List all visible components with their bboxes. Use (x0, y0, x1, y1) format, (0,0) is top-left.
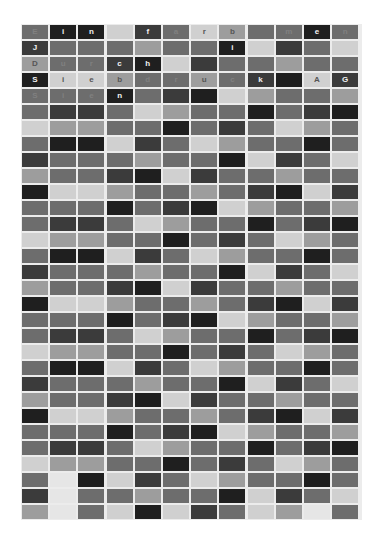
mosaic-cell (332, 441, 358, 455)
cell-letter: e (315, 28, 319, 36)
mosaic-cell (304, 185, 330, 199)
mosaic-cell (163, 313, 189, 327)
cell-letter: r (90, 60, 93, 68)
mosaic-cell: i (219, 41, 245, 55)
mosaic-cell (135, 489, 161, 503)
mosaic-cell (191, 345, 217, 359)
cell-letter: S (32, 76, 37, 84)
mosaic-cell (219, 393, 245, 407)
mosaic-cell (248, 425, 274, 439)
mosaic-cell (276, 457, 302, 471)
mosaic-cell (191, 153, 217, 167)
mosaic-cell (50, 185, 76, 199)
mosaic-cell (22, 169, 48, 183)
mosaic-cell (191, 201, 217, 215)
mosaic-cell (248, 281, 274, 295)
mosaic-cell (135, 121, 161, 135)
mosaic-cell (107, 201, 133, 215)
mosaic-cell (332, 345, 358, 359)
mosaic-cell (332, 233, 358, 247)
mosaic-cell (22, 137, 48, 151)
mosaic-cell (248, 217, 274, 231)
cell-letter: D (32, 60, 38, 68)
mosaic-cell (219, 185, 245, 199)
mosaic-cell (22, 217, 48, 231)
mosaic-cell (332, 153, 358, 167)
mosaic-cell (163, 249, 189, 263)
mosaic-cell (107, 217, 133, 231)
mosaic-cell (135, 217, 161, 231)
mosaic-cell: G (332, 73, 358, 87)
mosaic-cell (332, 473, 358, 487)
mosaic-cell (135, 105, 161, 119)
mosaic-cell (50, 457, 76, 471)
mosaic-cell (22, 489, 48, 503)
mosaic-cell (107, 473, 133, 487)
mosaic-cell (248, 89, 274, 103)
mosaic-cell (135, 137, 161, 151)
mosaic-cell (276, 473, 302, 487)
mosaic-cell (78, 441, 104, 455)
mosaic-cell (135, 281, 161, 295)
mosaic-cell (78, 153, 104, 167)
mosaic-cell (304, 505, 330, 519)
mosaic-cell (78, 249, 104, 263)
mosaic-cell (50, 505, 76, 519)
mosaic-cell (50, 393, 76, 407)
mosaic-cell (304, 489, 330, 503)
mosaic-cell (107, 313, 133, 327)
mosaic-cell (107, 345, 133, 359)
mosaic-cell (304, 57, 330, 71)
mosaic-cell (304, 169, 330, 183)
mosaic-cell (22, 473, 48, 487)
mosaic-cell (50, 137, 76, 151)
mosaic-cell (135, 409, 161, 423)
mosaic-cell (107, 265, 133, 279)
mosaic-cell (22, 249, 48, 263)
mosaic-cell (276, 89, 302, 103)
mosaic-cell (163, 377, 189, 391)
mosaic-cell (332, 169, 358, 183)
mosaic-cell (248, 313, 274, 327)
mosaic-cell (191, 89, 217, 103)
mosaic-cell (107, 393, 133, 407)
mosaic-cell (276, 329, 302, 343)
mosaic-cell (78, 201, 104, 215)
mosaic-cell (304, 201, 330, 215)
mosaic-cell (191, 329, 217, 343)
cell-letter: e (89, 76, 93, 84)
mosaic-cell (78, 345, 104, 359)
mosaic-cell (304, 233, 330, 247)
cell-letter: r (203, 28, 206, 36)
mosaic-cell (219, 169, 245, 183)
mosaic-cell (163, 297, 189, 311)
mosaic-cell (276, 281, 302, 295)
mosaic-cell (50, 313, 76, 327)
mosaic-cell (163, 153, 189, 167)
mosaic-cell (332, 409, 358, 423)
mosaic-cell (332, 249, 358, 263)
mosaic-cell (219, 473, 245, 487)
mosaic-cell (78, 233, 104, 247)
mosaic-cell (304, 249, 330, 263)
mosaic-cell (107, 505, 133, 519)
mosaic-cell (276, 345, 302, 359)
mosaic-cell (304, 377, 330, 391)
cell-letter: i (62, 28, 64, 36)
mosaic-cell (219, 105, 245, 119)
mosaic-cell (78, 329, 104, 343)
mosaic-cell (135, 329, 161, 343)
mosaic-cell (191, 233, 217, 247)
mosaic-cell (163, 361, 189, 375)
cell-letter: u (61, 60, 66, 68)
mosaic-cell (163, 57, 189, 71)
mosaic-cell (219, 57, 245, 71)
mosaic-cell (191, 185, 217, 199)
mosaic-cell (163, 329, 189, 343)
mosaic-cell (107, 41, 133, 55)
mosaic-cell (50, 473, 76, 487)
mosaic-cell (22, 393, 48, 407)
mosaic-cell: d (135, 73, 161, 87)
mosaic-cell (276, 249, 302, 263)
mosaic-cell (219, 121, 245, 135)
